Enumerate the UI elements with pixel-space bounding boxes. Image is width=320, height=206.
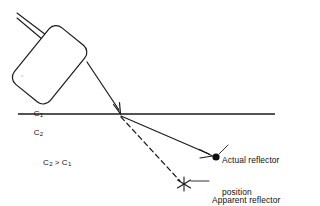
transducer-cable-upper-icon [17,13,46,35]
apparent-reflector-caption-line1: Apparent reflector [212,195,280,206]
condition-right-subscript: 1 [68,161,72,167]
actual-reflector-caption-line1: Actual reflector [222,155,279,166]
condition-operator: > [53,158,62,167]
transducer-icon [9,22,91,108]
refraction-diagram: C1 C2 C2>C1 Actual reflector position Ap… [0,0,320,206]
velocity-condition-label: C2>C1 [33,148,72,179]
medium-lower-subscript: 2 [40,131,44,137]
refracted-beam-arrow-icon [121,116,213,158]
transducer-body-shape [9,22,91,108]
scan-artifact-speck-icon [21,75,23,77]
apparent-reflector-caption: Apparent reflector position [212,174,280,206]
apparent-reflector-asterisk-icon [178,177,191,191]
medium-lower-label: C2 [24,118,43,149]
actual-reflector-dot-icon [212,153,219,160]
incident-beam-arrow-icon [87,62,121,114]
assumed-straight-path-dashed-icon [121,117,180,181]
